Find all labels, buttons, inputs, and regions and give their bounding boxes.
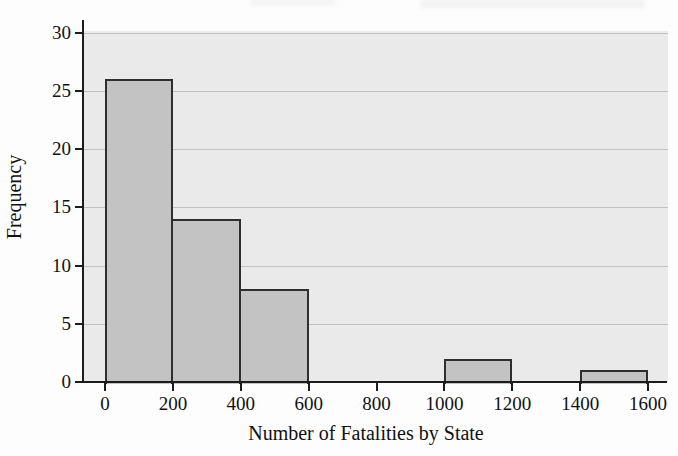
y-tick-label: 5: [27, 313, 71, 335]
x-tick: [647, 383, 649, 391]
x-axis-title: Number of Fatalities by State: [216, 420, 516, 446]
histogram-bar-0-200: [105, 79, 173, 384]
y-tick: [75, 265, 83, 267]
x-tick: [240, 383, 242, 391]
x-tick: [376, 383, 378, 391]
y-tick: [75, 32, 83, 34]
cropped-text-artifact: [250, 0, 335, 5]
y-tick-label: 20: [27, 138, 71, 160]
y-tick-label: 30: [27, 22, 71, 44]
x-tick: [172, 383, 174, 391]
y-tick: [75, 90, 83, 92]
x-tick-label: 0: [73, 393, 137, 415]
x-tick-label: 1000: [412, 393, 476, 415]
y-tick-label: 0: [27, 371, 71, 393]
histogram-bar-400-600: [239, 289, 309, 384]
x-tick-label: 600: [277, 393, 341, 415]
x-tick-label: 400: [209, 393, 273, 415]
y-axis-title: Frequency: [1, 141, 27, 253]
cropped-text-artifact: [420, 0, 645, 8]
x-tick: [579, 383, 581, 391]
x-tick: [443, 383, 445, 391]
y-axis-line: [82, 20, 84, 383]
y-tick: [75, 323, 83, 325]
x-tick-label: 200: [141, 393, 205, 415]
histogram-figure: 051015202530 020040060080010001200140016…: [0, 0, 678, 456]
y-tick: [75, 148, 83, 150]
y-tick-label: 10: [27, 255, 71, 277]
x-tick-label: 1200: [480, 393, 544, 415]
y-tick: [75, 381, 83, 383]
x-tick: [511, 383, 513, 391]
gridline-y-30: [84, 33, 668, 34]
x-tick: [308, 383, 310, 391]
x-tick-label: 800: [345, 393, 409, 415]
y-tick: [75, 206, 83, 208]
y-tick-label: 25: [27, 80, 71, 102]
x-tick-label: 1400: [548, 393, 612, 415]
histogram-bar-200-400: [171, 219, 241, 384]
x-tick: [104, 383, 106, 391]
x-tick-label: 1600: [616, 393, 678, 415]
y-tick-label: 15: [27, 196, 71, 218]
